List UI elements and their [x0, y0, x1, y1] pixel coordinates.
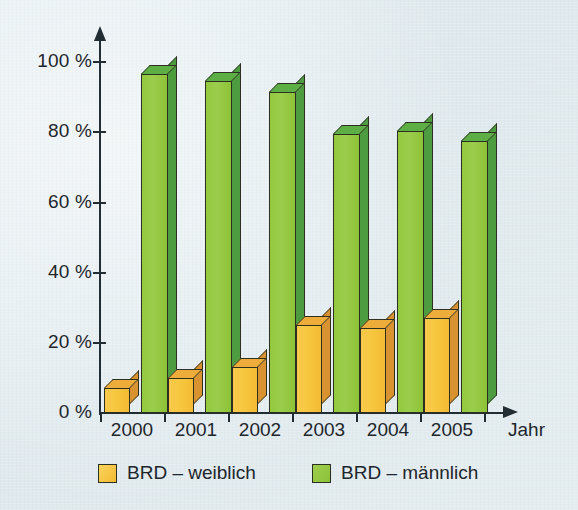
bar-maennlich-2003 [333, 134, 360, 413]
chart-canvas: 100 % 80 % 60 % 40 % 20 % 0 % [0, 0, 578, 510]
legend-swatch-green-icon [312, 464, 331, 483]
x-axis-label-2005: 2005 [420, 419, 484, 441]
chart-legend: BRD – weiblich BRD – männlich [0, 462, 578, 496]
x-axis-label-2002: 2002 [228, 419, 292, 441]
y-tick-40 [93, 272, 106, 274]
bar-weiblich-2001 [168, 378, 194, 413]
y-axis-line [99, 38, 101, 415]
y-axis-label-0: 0 % [18, 401, 92, 423]
y-axis-label-100: 100 % [18, 50, 92, 72]
y-tick-20 [93, 342, 106, 344]
x-axis-arrow-icon [503, 406, 518, 418]
y-axis-label-40: 40 % [18, 261, 92, 283]
plot-area: 100 % 80 % 60 % 40 % 20 % 0 % [0, 0, 578, 510]
x-axis-label-2000: 2000 [100, 419, 164, 441]
bar-maennlich-2001 [205, 81, 232, 413]
bar-maennlich-2005 [461, 141, 488, 413]
legend-swatch-yellow-icon [98, 464, 117, 483]
bar-weiblich-2000 [104, 388, 130, 413]
legend-item-weiblich: BRD – weiblich [98, 462, 256, 484]
bar-weiblich-2003 [296, 325, 322, 413]
y-axis-arrow-icon [94, 26, 106, 41]
x-axis-label-2001: 2001 [164, 419, 228, 441]
y-axis-label-20: 20 % [18, 331, 92, 353]
bar-weiblich-2005 [424, 318, 450, 413]
legend-label-maennlich: BRD – männlich [341, 462, 478, 484]
y-tick-100 [93, 61, 106, 63]
x-axis-label-2004: 2004 [356, 419, 420, 441]
bar-maennlich-2002 [269, 92, 296, 413]
bar-maennlich-2000 [141, 74, 168, 413]
y-tick-80 [93, 131, 106, 133]
bar-maennlich-2004 [397, 131, 424, 413]
x-axis-label-2003: 2003 [292, 419, 356, 441]
y-axis-label-60: 60 % [18, 191, 92, 213]
legend-label-weiblich: BRD – weiblich [127, 462, 256, 484]
legend-item-maennlich: BRD – männlich [312, 462, 478, 484]
y-tick-60 [93, 202, 106, 204]
bar-weiblich-2002 [232, 367, 258, 413]
y-axis-label-80: 80 % [18, 120, 92, 142]
x-axis-name: Jahr [508, 419, 545, 441]
bar-weiblich-2004 [360, 328, 386, 413]
